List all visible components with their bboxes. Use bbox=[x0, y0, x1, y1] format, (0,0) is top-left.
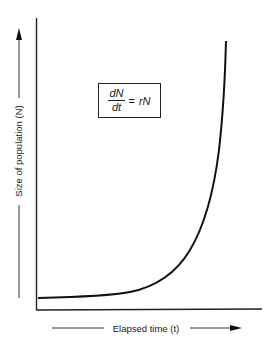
x-label-arrow-icon bbox=[230, 325, 242, 331]
x-axis-line bbox=[36, 309, 262, 310]
equation-equals: = bbox=[129, 95, 135, 107]
y-axis-label: Size of population (N) bbox=[13, 105, 24, 196]
growth-curve bbox=[38, 41, 226, 298]
y-label-arrow-icon bbox=[16, 28, 22, 40]
exponential-growth-chart: Size of population (N) Elapsed time (t) … bbox=[0, 0, 275, 350]
equation-numerator: dN bbox=[108, 88, 124, 101]
equation-fraction: dN dt bbox=[108, 88, 124, 113]
equation-rhs-n: N bbox=[143, 95, 151, 107]
equation-box: dN dt = rN bbox=[98, 83, 161, 118]
x-axis-label: Elapsed time (t) bbox=[113, 323, 180, 334]
equation-rhs: rN bbox=[139, 95, 151, 107]
equation-denominator: dt bbox=[112, 101, 121, 113]
